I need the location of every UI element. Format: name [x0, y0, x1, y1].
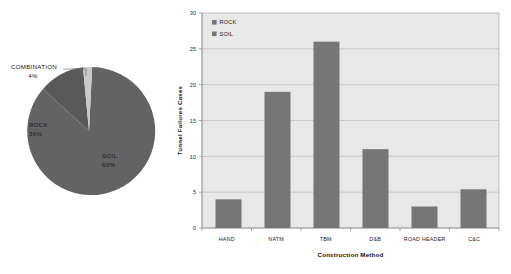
y-tick-label-5: 5	[193, 189, 196, 195]
bar-cc[interactable]	[461, 189, 487, 228]
legend-label-rock[interactable]: ROCK	[220, 19, 237, 25]
y-tick-label-30: 30	[190, 10, 196, 16]
x-category-label-hand: HAND	[219, 236, 235, 242]
x-category-label-road-header: ROAD HEADER	[404, 236, 446, 242]
x-category-label-tbm: TBM	[320, 236, 332, 242]
y-tick-marks	[199, 13, 202, 228]
bar-natm[interactable]	[265, 92, 291, 228]
pie-label-rock-name: ROCK	[29, 121, 48, 128]
pie-chart-panel: COMBINATION 4% ROCK 36% SOIL 60%	[0, 0, 170, 274]
legend-swatch-soil	[212, 32, 217, 37]
bar-hand[interactable]	[216, 199, 242, 228]
bar-db[interactable]	[363, 149, 389, 228]
pie-label-combination: COMBINATION 4%	[11, 62, 57, 81]
legend-label-soil[interactable]: SOIL	[220, 31, 234, 37]
pie-label-combination-percent: 4%	[9, 71, 57, 80]
pie-label-soil-name: SOIL	[102, 152, 117, 159]
y-tick-label-0: 0	[193, 225, 196, 231]
pie-label-rock-percent: 36%	[29, 129, 48, 138]
legend-swatch-rock	[212, 20, 217, 25]
pie-label-soil: SOIL 60%	[102, 151, 117, 170]
bar-chart-svg: 30 25 20 15 10 5 0 Tunnel Failures Cases	[170, 0, 511, 274]
pie-label-soil-percent: 60%	[102, 160, 117, 169]
x-category-label-natm: NATM	[268, 236, 284, 242]
x-category-label-db: D&B	[369, 236, 381, 242]
bar-tbm[interactable]	[314, 42, 340, 228]
pie-chart-svg	[0, 0, 170, 274]
x-axis-title: Construction Method	[317, 251, 383, 258]
bar-chart-panel: 30 25 20 15 10 5 0 Tunnel Failures Cases	[170, 0, 511, 274]
bar-road-header[interactable]	[412, 207, 438, 229]
y-tick-label-10: 10	[190, 154, 196, 160]
pie-label-combination-name: COMBINATION	[11, 63, 57, 70]
x-category-label-cc: C&C	[468, 236, 480, 242]
x-tick-marks	[202, 228, 499, 231]
y-tick-label-25: 25	[190, 46, 196, 52]
y-tick-label-20: 20	[190, 82, 196, 88]
y-tick-label-15: 15	[190, 118, 196, 124]
pie-label-rock: ROCK 36%	[29, 120, 48, 139]
y-axis-title: Tunnel Failures Cases	[176, 85, 183, 155]
figure-container: COMBINATION 4% ROCK 36% SOIL 60%	[0, 0, 511, 274]
